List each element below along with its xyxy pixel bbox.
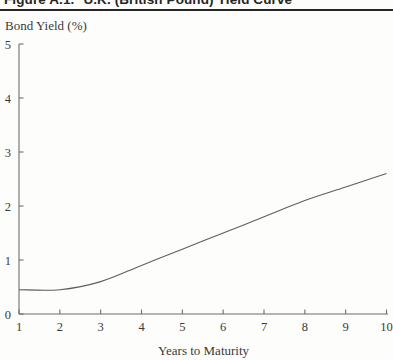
x-tick-label: 4 [138,320,145,334]
x-tick-label: 1 [16,320,22,334]
x-tick-label: 8 [302,320,308,334]
y-tick-label: 0 [5,308,11,322]
y-tick-label: 1 [5,254,11,268]
yield-curve-line [19,174,387,291]
yield-curve-chart: 01234512345678910 [0,0,393,360]
x-tick-label: 9 [343,320,349,334]
x-axis-title: Years to Maturity [19,343,388,359]
y-tick-label: 5 [5,38,11,52]
scanned-figure-page: Figure A.1.U.K. (British Pound) Yield Cu… [0,0,393,360]
y-tick-label: 2 [5,200,11,214]
y-tick-label: 4 [5,92,12,106]
x-tick-label: 5 [179,320,185,334]
x-tick-label: 10 [380,320,393,334]
x-tick-label: 7 [261,320,267,334]
y-tick-label: 3 [5,146,11,160]
x-tick-label: 3 [98,320,104,334]
x-tick-label: 6 [220,320,226,334]
x-tick-label: 2 [57,320,63,334]
